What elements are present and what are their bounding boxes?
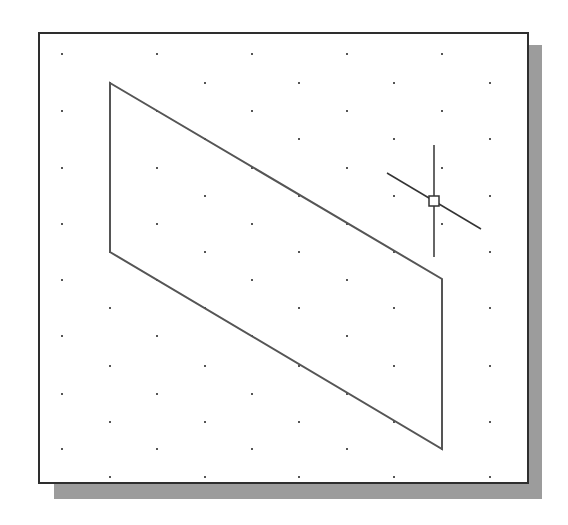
grid-dot <box>441 53 443 55</box>
grid-dot <box>346 448 348 450</box>
grid-dot <box>346 167 348 169</box>
pickbox-icon <box>429 196 439 206</box>
grid-dot <box>109 476 111 478</box>
grid-dot <box>393 82 395 84</box>
grid-dot <box>298 82 300 84</box>
grid-dot <box>489 421 491 423</box>
grid-dot <box>204 365 206 367</box>
grid-dot <box>393 365 395 367</box>
grid-dot <box>441 110 443 112</box>
grid-dot <box>204 82 206 84</box>
grid-dot <box>346 335 348 337</box>
grid-dot <box>346 110 348 112</box>
grid-dot <box>489 195 491 197</box>
grid-dot <box>156 448 158 450</box>
grid-dot <box>109 307 111 309</box>
grid-dot <box>61 110 63 112</box>
grid-dot <box>298 251 300 253</box>
grid-dot <box>489 138 491 140</box>
grid-dot <box>156 393 158 395</box>
grid-dot <box>251 223 253 225</box>
grid-dot <box>61 279 63 281</box>
grid-dot <box>489 307 491 309</box>
grid-dot <box>61 223 63 225</box>
grid-dot <box>298 476 300 478</box>
grid-dot <box>298 138 300 140</box>
drawing-canvas[interactable] <box>0 0 568 525</box>
grid-dot <box>204 195 206 197</box>
grid-dot <box>61 393 63 395</box>
isometric-grid-dots <box>61 53 491 478</box>
grid-dot <box>156 223 158 225</box>
grid-dot <box>489 476 491 478</box>
parallelogram-shape[interactable] <box>110 83 442 449</box>
grid-dot <box>489 82 491 84</box>
grid-dot <box>156 167 158 169</box>
grid-dot <box>109 365 111 367</box>
grid-dot <box>156 335 158 337</box>
grid-dot <box>298 421 300 423</box>
grid-dot <box>251 279 253 281</box>
grid-dot <box>204 251 206 253</box>
crosshair-cursor-icon <box>387 145 481 257</box>
grid-dot <box>204 421 206 423</box>
grid-dot <box>489 365 491 367</box>
grid-dot <box>251 393 253 395</box>
grid-dot <box>156 53 158 55</box>
grid-dot <box>393 307 395 309</box>
grid-dot <box>393 138 395 140</box>
grid-dot <box>393 195 395 197</box>
grid-dot <box>251 448 253 450</box>
grid-dot <box>204 476 206 478</box>
grid-dot <box>251 110 253 112</box>
grid-dot <box>61 448 63 450</box>
grid-dot <box>61 167 63 169</box>
grid-dot <box>61 53 63 55</box>
grid-dot <box>441 223 443 225</box>
grid-dot <box>109 421 111 423</box>
grid-dot <box>298 307 300 309</box>
grid-dot <box>251 53 253 55</box>
grid-dot <box>441 167 443 169</box>
grid-dot <box>346 53 348 55</box>
grid-dot <box>489 251 491 253</box>
grid-dot <box>393 476 395 478</box>
grid-dot <box>346 279 348 281</box>
grid-dot <box>61 335 63 337</box>
